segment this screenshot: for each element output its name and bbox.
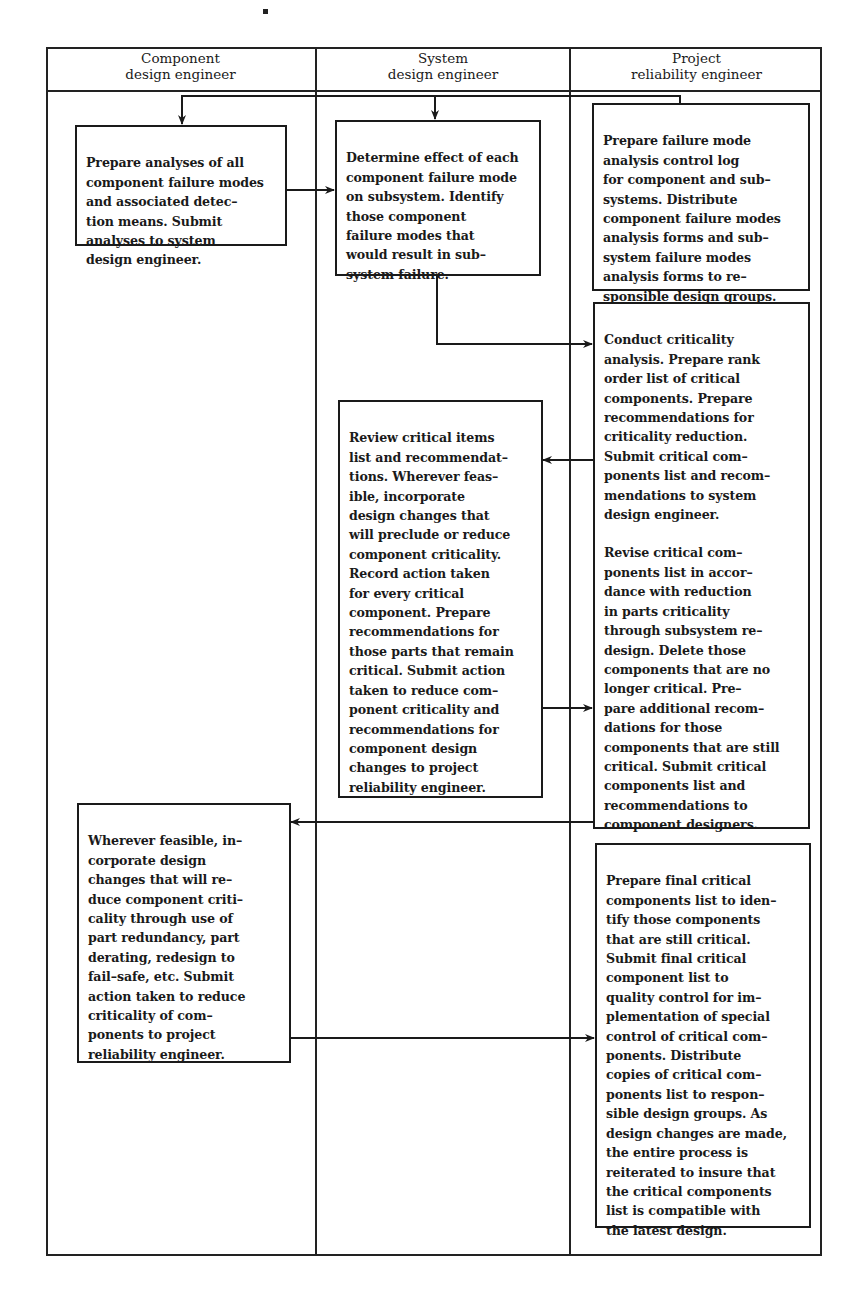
step-box-incorporate-design-changes: Wherever feasible, in– corporate design … bbox=[77, 803, 291, 1063]
step-box-final-critical-list: Prepare final critical components list t… bbox=[595, 843, 811, 1228]
step-box-analyze-failure-modes: Prepare analyses of all component failur… bbox=[75, 125, 287, 246]
step-box-review-critical-items: Review critical items list and recommend… bbox=[338, 400, 543, 798]
step-text: Prepare final critical components list t… bbox=[606, 873, 787, 1237]
step-text: Conduct criticality analysis. Prepare ra… bbox=[604, 332, 770, 522]
arrow-s2-to-s4 bbox=[437, 275, 592, 344]
step-box-determine-effect: Determine effect of each component failu… bbox=[335, 120, 541, 276]
step-text: Prepare failure mode analysis control lo… bbox=[603, 133, 781, 303]
step-box-criticality-analysis: Conduct criticality analysis. Prepare ra… bbox=[593, 302, 810, 829]
step-box-control-log: Prepare failure mode analysis control lo… bbox=[592, 103, 810, 291]
step-text: Determine effect of each component failu… bbox=[346, 150, 519, 281]
step-text-revise: Revise critical com– ponents list in acc… bbox=[604, 543, 802, 834]
step-text: Wherever feasible, in– corporate design … bbox=[88, 833, 245, 1061]
step-text: Review critical items list and recommend… bbox=[349, 430, 514, 794]
